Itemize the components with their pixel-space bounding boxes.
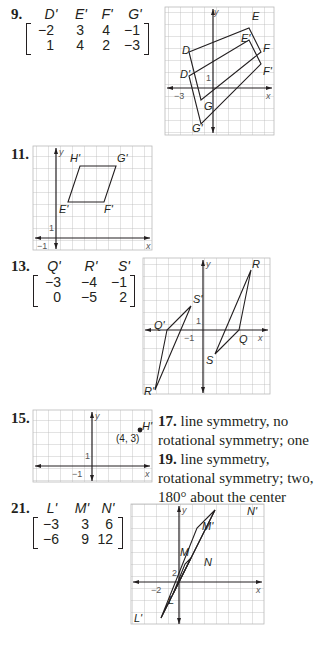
graph-21: [0, 0, 316, 645]
tick-label-y: 2: [172, 568, 177, 578]
point-label-L: L: [168, 594, 174, 606]
point-label-N-prime: N': [247, 505, 257, 517]
point-label-M-prime: M': [202, 520, 213, 532]
point-label-N: N: [204, 556, 212, 568]
axis-label-y: y: [182, 505, 187, 515]
point-label-L-prime: L': [134, 612, 142, 624]
point-label-M: M: [180, 546, 189, 558]
axis-label-x: x: [256, 585, 261, 595]
tick-label-x: −2: [151, 585, 161, 595]
